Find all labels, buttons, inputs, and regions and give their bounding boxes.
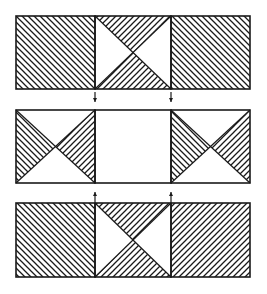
hatched-panels-diagram [0, 0, 267, 294]
bottom-triangle-hatch [95, 53, 171, 90]
arrow-head [93, 98, 97, 102]
arrow-head [169, 98, 173, 102]
panel-middle-3 [171, 110, 250, 183]
panel-middle-2 [95, 110, 171, 183]
top-triangle-hatch [95, 16, 171, 53]
right-triangle-hatch [56, 110, 96, 183]
panel-middle-1 [16, 110, 95, 183]
hatched-fill [171, 16, 250, 89]
panel-bottom-2 [95, 203, 171, 277]
hatched-fill [16, 16, 95, 89]
panel-top-2 [95, 16, 171, 89]
panel-border [95, 110, 171, 183]
hatched-fill [16, 203, 95, 277]
panel-bottom-3 [171, 203, 250, 277]
left-triangle-hatch [16, 110, 56, 183]
arrow-up-icon [93, 192, 97, 202]
row-bottom [16, 203, 250, 277]
arrow-up-icon [169, 192, 173, 202]
bottom-triangle-hatch [95, 240, 171, 277]
hatched-fill [171, 203, 250, 277]
row-middle [16, 110, 250, 183]
arrow-down-icon [93, 92, 97, 102]
panel-bottom-1 [16, 203, 95, 277]
panel-top-1 [16, 16, 95, 89]
panel-top-3 [171, 16, 250, 89]
arrow-down-icon [169, 92, 173, 102]
right-triangle-hatch [211, 110, 251, 183]
top-triangle-hatch [95, 203, 171, 240]
arrow-head [169, 192, 173, 196]
row-top [16, 16, 250, 89]
left-triangle-hatch [171, 110, 211, 183]
arrow-head [93, 192, 97, 196]
